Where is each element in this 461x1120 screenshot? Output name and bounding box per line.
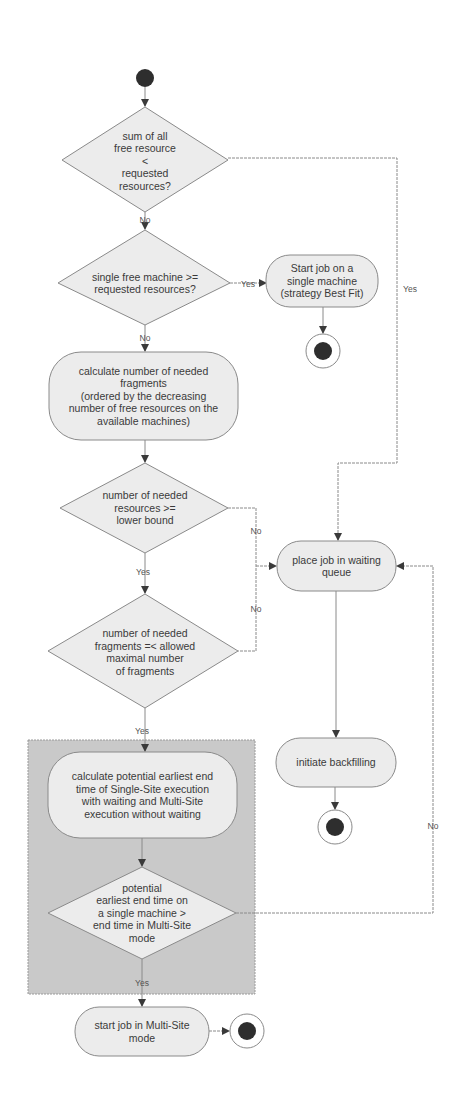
text-line: (strategy Best Fit): [281, 287, 364, 300]
text-line: potential: [122, 882, 162, 895]
text-line: available machines): [97, 415, 190, 428]
text-line: start job in Multi-Site: [94, 1019, 189, 1032]
action-calc-endtime-text: calculate potential earliest end time of…: [48, 752, 237, 838]
text-line: with waiting and Multi-Site: [82, 795, 203, 808]
text-line: requested: [122, 167, 169, 180]
text-line: single free machine >=: [92, 271, 198, 284]
text-line: of fragments: [116, 665, 174, 678]
text-line: calculate number of needed: [79, 365, 209, 378]
text-line: initiate backfilling: [296, 756, 375, 769]
edge-label-d2-no: No: [140, 333, 151, 343]
edge-label-d5-no: No: [428, 821, 439, 831]
decision-single-machine-text: single free machine >= requested resourc…: [70, 268, 220, 298]
text-line: single machine: [287, 275, 357, 288]
text-line: (ordered by the decreasing: [81, 390, 207, 403]
text-line: calculate potential earliest end: [72, 770, 213, 783]
text-line: fragments: [120, 377, 167, 390]
text-line: a single machine >: [98, 907, 186, 920]
text-line: queue: [322, 566, 351, 579]
edge-label-d4-yes: Yes: [135, 726, 149, 736]
text-line: Start job on a: [291, 262, 353, 275]
text-line: resources >=: [114, 502, 175, 515]
text-line: time of Single-Site execution: [76, 783, 209, 796]
start-node: [136, 69, 154, 87]
decision-lower-bound-text: number of needed resources >= lower boun…: [85, 488, 205, 528]
text-line: earliest end time on: [96, 894, 188, 907]
text-line: end time in Multi-Site: [93, 919, 191, 932]
text-line: execution without waiting: [84, 808, 201, 821]
text-line: maximal number: [106, 652, 184, 665]
text-line: <: [142, 155, 148, 168]
edge-label-d4-no: No: [251, 604, 262, 614]
text-line: place job in waiting: [292, 554, 381, 567]
edge-label-d3-no: No: [251, 526, 262, 536]
text-line: sum of all: [123, 130, 168, 143]
edge-label-d5-yes: Yes: [135, 978, 149, 988]
text-line: resources?: [119, 180, 171, 193]
decision-sum-free-text: sum of all free resource < requested res…: [95, 130, 195, 192]
action-start-single-text: Start job on a single machine (strategy …: [266, 255, 378, 307]
text-line: mode: [129, 932, 155, 945]
text-line: requested resources?: [94, 283, 196, 296]
text-line: number of free resources on the: [69, 402, 218, 415]
action-place-waiting-text: place job in waiting queue: [277, 541, 396, 591]
action-start-multisite-text: start job in Multi-Site mode: [75, 1007, 209, 1056]
text-line: number of needed: [102, 489, 187, 502]
text-line: mode: [129, 1032, 155, 1045]
edge-label-d1-no: No: [140, 215, 151, 225]
edge-label-d3-yes: Yes: [136, 567, 150, 577]
text-line: fragments =< allowed: [95, 640, 195, 653]
decision-max-fragments-text: number of needed fragments =< allowed ma…: [75, 625, 215, 679]
text-line: number of needed: [102, 627, 187, 640]
action-calc-fragments-text: calculate number of needed fragments (or…: [49, 352, 238, 440]
decision-endtime-text: potential earliest end time on a single …: [72, 880, 212, 946]
edge-label-d1-yes: Yes: [403, 284, 417, 294]
text-line: lower bound: [116, 514, 173, 527]
text-line: free resource: [114, 142, 176, 155]
action-backfilling-text: initiate backfilling: [276, 738, 396, 787]
edge-label-d2-yes: Yes: [241, 279, 255, 289]
